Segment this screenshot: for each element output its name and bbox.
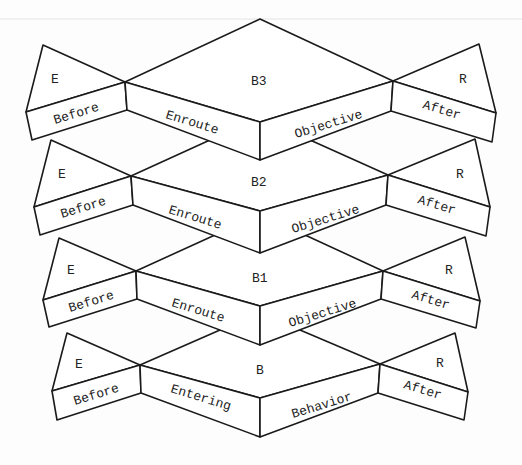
tier-b2-left-corner-label: E xyxy=(58,167,66,182)
tier-b-left-corner-label: E xyxy=(75,357,83,372)
tier-b-center-label: B xyxy=(256,363,264,378)
tier-b1-right-corner-label: R xyxy=(445,263,453,278)
tier-b1-left-corner-label: E xyxy=(67,263,75,278)
tier-b3-left-corner-label: E xyxy=(51,72,59,87)
tier-b-right-corner-label: R xyxy=(436,356,444,371)
tier-b3-right-corner-label: R xyxy=(459,72,467,87)
tier-b3 xyxy=(26,19,496,160)
tiered-diagram: E R B3 Before Enroute Objective After E … xyxy=(0,0,522,465)
tier-b3-center-label: B3 xyxy=(251,74,267,89)
tier-b2-center-label: B2 xyxy=(251,175,267,190)
diagram-canvas: E R B3 Before Enroute Objective After E … xyxy=(0,0,522,465)
tier-b2-right-corner-label: R xyxy=(456,167,464,182)
tier-b1-center-label: B1 xyxy=(252,271,268,286)
